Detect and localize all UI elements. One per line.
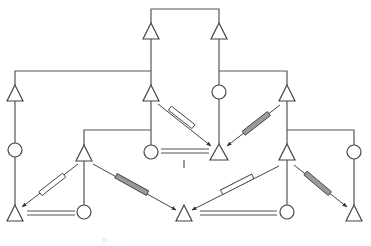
network-diagram	[0, 0, 371, 246]
triangle-node	[211, 23, 227, 39]
connector-lines	[15, 9, 354, 205]
triangle-node	[76, 145, 92, 161]
triangle-node	[143, 85, 159, 101]
triangle-node	[346, 205, 362, 221]
triangle-node	[210, 144, 228, 160]
circle-node	[280, 205, 294, 219]
circle-nodes	[8, 85, 361, 219]
triangle-node	[279, 85, 295, 101]
circle-node	[347, 145, 361, 159]
circle-node	[212, 85, 226, 99]
triangle-node	[176, 205, 192, 221]
triangle-node	[143, 23, 159, 39]
triangle-node	[7, 205, 23, 221]
circle-node	[8, 143, 22, 157]
triangle-node	[7, 85, 23, 101]
triangle-node	[279, 144, 295, 160]
circle-node	[144, 145, 158, 159]
faint-caption: · · · · ◘ · · · · · · · · · ·	[80, 237, 164, 243]
circle-node	[77, 205, 91, 219]
